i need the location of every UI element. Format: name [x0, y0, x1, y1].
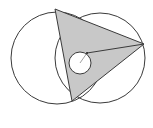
tangent-point — [86, 52, 88, 54]
shaded-triangle — [55, 9, 144, 101]
geometry-diagram — [0, 0, 153, 128]
